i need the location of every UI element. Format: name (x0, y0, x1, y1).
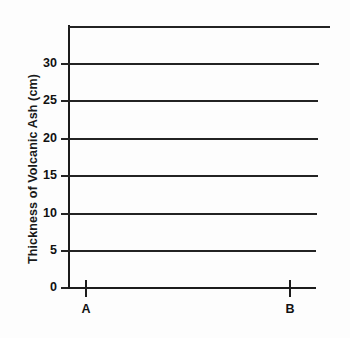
y-tick-label-20: 20 (31, 132, 57, 145)
gridline-20 (68, 138, 318, 140)
gridline-15 (68, 175, 318, 177)
y-tick-mark-10 (61, 213, 68, 215)
y-tick-mark-25 (61, 100, 68, 102)
x-axis-baseline (68, 287, 316, 289)
y-tick-label-10: 10 (31, 207, 57, 220)
x-tick-mark-b (289, 280, 291, 297)
gridline-10 (68, 213, 317, 215)
gridline-25 (68, 100, 318, 102)
gridline-5 (68, 250, 316, 252)
y-tick-label-5: 5 (31, 244, 57, 257)
chart-screenshot: Thickness of Volcanic Ash (cm) 30 25 20 … (0, 0, 350, 338)
volcanic-ash-chart: Thickness of Volcanic Ash (cm) 30 25 20 … (0, 0, 350, 338)
x-tick-label-b: B (280, 303, 300, 316)
y-tick-mark-15 (61, 175, 68, 177)
y-tick-label-25: 25 (31, 94, 57, 107)
y-tick-label-30: 30 (31, 57, 57, 70)
x-tick-mark-a (85, 280, 87, 297)
y-tick-mark-30 (61, 63, 68, 65)
y-tick-label-15: 15 (31, 169, 57, 182)
y-tick-mark-0 (61, 287, 68, 289)
gridline-30 (68, 63, 319, 65)
y-tick-label-0: 0 (31, 281, 57, 294)
gridline-35 (68, 26, 330, 28)
x-tick-label-a: A (76, 303, 96, 316)
y-tick-mark-20 (61, 138, 68, 140)
y-tick-mark-5 (61, 250, 68, 252)
